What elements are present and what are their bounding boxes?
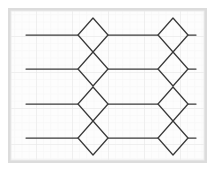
figure-canvas: [0, 0, 215, 171]
lattice-diagram-svg: [0, 0, 215, 171]
